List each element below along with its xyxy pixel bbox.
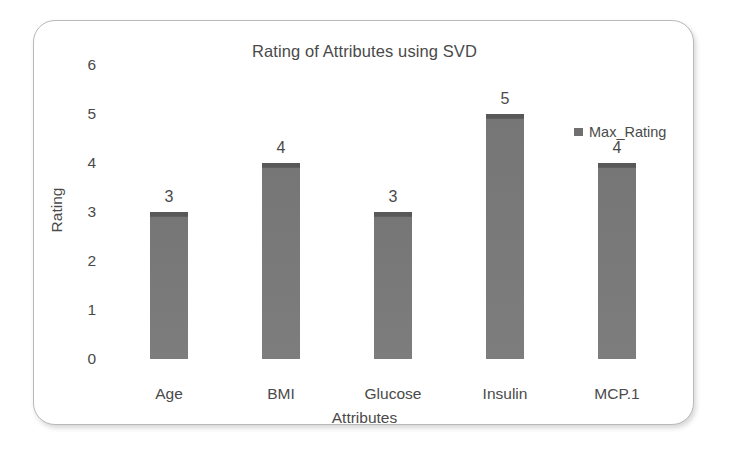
bar[interactable]: [598, 163, 636, 359]
y-axis-tick-label: 1: [68, 301, 96, 319]
y-axis-tick-label: 2: [68, 252, 96, 270]
bar-group: 3: [337, 65, 449, 359]
x-axis-tick-label: MCP.1: [561, 385, 673, 403]
bar-group: 4: [561, 65, 673, 359]
bar[interactable]: [262, 163, 300, 359]
bar-value-label: 3: [165, 188, 174, 206]
bar-value-label: 4: [613, 139, 622, 157]
y-axis-tick-label: 5: [68, 105, 96, 123]
legend-entry-label: Max_Rating: [589, 124, 666, 140]
x-axis-tick-label: Glucose: [337, 385, 449, 403]
bar-group: 4: [225, 65, 337, 359]
y-axis-tick-labels: 0123456: [68, 65, 96, 359]
x-axis-tick-labels: AgeBMIGlucoseInsulinMCP.1: [113, 385, 673, 409]
y-axis-title: Rating: [48, 165, 66, 255]
bar[interactable]: [374, 212, 412, 359]
y-axis-tick-label: 0: [68, 350, 96, 368]
y-axis-tick-label: 6: [68, 56, 96, 74]
chart-card: Rating of Attributes using SVD Rating 01…: [33, 20, 694, 425]
x-axis-title: Attributes: [34, 409, 695, 427]
x-axis-tick-label: Age: [113, 385, 225, 403]
bar[interactable]: [486, 114, 524, 359]
chart-screenshot: Rating of Attributes using SVD Rating 01…: [0, 0, 729, 455]
plot-area: Rating of Attributes using SVD Rating 01…: [34, 21, 695, 426]
chart-title: Rating of Attributes using SVD: [34, 42, 695, 61]
square-marker-icon: [574, 128, 583, 136]
y-axis-tick-label: 4: [68, 154, 96, 172]
x-axis-tick-label: Insulin: [449, 385, 561, 403]
bar[interactable]: [150, 212, 188, 359]
bar-value-label: 4: [277, 139, 286, 157]
bar-value-label: 3: [389, 188, 398, 206]
bar-group: 3: [113, 65, 225, 359]
bar-value-label: 5: [501, 90, 510, 108]
x-axis-tick-label: BMI: [225, 385, 337, 403]
y-axis-tick-label: 3: [68, 203, 96, 221]
chart-legend: Max_Rating: [574, 124, 666, 140]
bars-layer: 34354: [113, 65, 673, 359]
bar-group: 5: [449, 65, 561, 359]
